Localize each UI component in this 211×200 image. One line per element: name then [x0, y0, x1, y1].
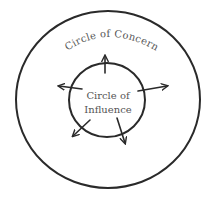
- arrow-down-right-icon: [117, 118, 125, 143]
- circle-of-influence-diagram: Circle of Concern Circle of Influence: [0, 0, 211, 200]
- circle-of-influence-label-line1: Circle of: [86, 90, 131, 101]
- circle-of-influence-label-line2: Influence: [84, 104, 131, 115]
- circle-of-concern-label: Circle of Concern: [63, 28, 161, 53]
